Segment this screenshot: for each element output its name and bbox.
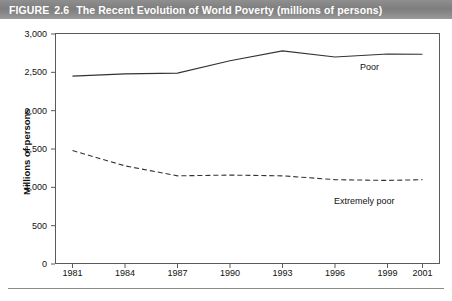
y-tick-label: 0 — [7, 259, 47, 269]
series-label-extremely-poor: Extremely poor — [334, 196, 395, 206]
series-line-extremely-poor — [73, 151, 423, 181]
y-tick-label: 3,000 — [7, 29, 47, 39]
x-tick-label: 1999 — [377, 268, 397, 278]
x-tick-label: 2001 — [412, 268, 432, 278]
y-tick-label: 2,500 — [7, 67, 47, 77]
footer-divider — [8, 288, 444, 289]
x-tick-label: 1993 — [272, 268, 292, 278]
series-label-poor: Poor — [360, 62, 379, 72]
y-tick-label: 1,500 — [7, 144, 47, 154]
y-axis-ticks — [51, 34, 55, 264]
y-tick-label: 1,000 — [7, 182, 47, 192]
x-tick-label: 1984 — [115, 268, 135, 278]
x-tick-label: 1987 — [167, 268, 187, 278]
figure-container: FIGURE 2.6 The Recent Evolution of World… — [0, 0, 452, 301]
x-tick-label: 1996 — [325, 268, 345, 278]
y-tick-label: 500 — [7, 221, 47, 231]
x-tick-label: 1990 — [220, 268, 240, 278]
x-tick-label: 1981 — [62, 268, 82, 278]
chart-canvas — [0, 0, 452, 301]
y-tick-label: 2,000 — [7, 106, 47, 116]
